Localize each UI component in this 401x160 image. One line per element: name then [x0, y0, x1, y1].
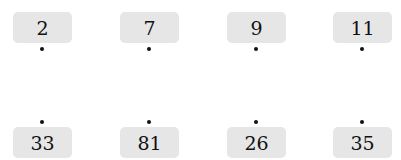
- bottom-dot-1[interactable]: [40, 120, 44, 124]
- bottom-card-4[interactable]: 35: [333, 127, 392, 158]
- top-card-3[interactable]: 9: [227, 12, 286, 43]
- bottom-card-3[interactable]: 26: [227, 127, 286, 158]
- top-card-2[interactable]: 7: [120, 12, 179, 43]
- top-dot-1[interactable]: [40, 47, 44, 51]
- bottom-card-1[interactable]: 33: [13, 127, 72, 158]
- bottom-dot-3[interactable]: [254, 120, 258, 124]
- top-dot-2[interactable]: [147, 47, 151, 51]
- top-dot-3[interactable]: [254, 47, 258, 51]
- bottom-dot-2[interactable]: [147, 120, 151, 124]
- bottom-dot-4[interactable]: [360, 120, 364, 124]
- top-card-1[interactable]: 2: [13, 12, 72, 43]
- top-dot-4[interactable]: [360, 47, 364, 51]
- bottom-card-2[interactable]: 81: [120, 127, 179, 158]
- top-card-4[interactable]: 11: [333, 12, 392, 43]
